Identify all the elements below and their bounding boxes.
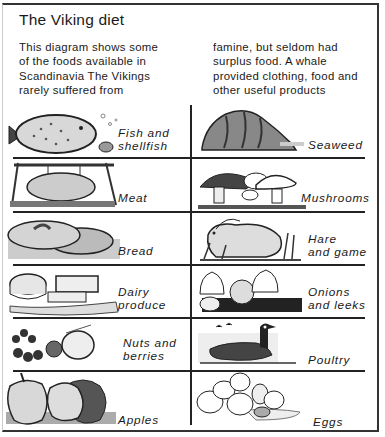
seaweed-rock-icon: [196, 104, 306, 156]
flatfish-icon: [6, 104, 126, 156]
onions-leeks-icon: [196, 266, 306, 317]
intro-line: rarely suffered from: [19, 83, 189, 97]
food-label-onions: Onions and leeks: [308, 286, 366, 312]
cheese-icon: [6, 266, 121, 317]
food-label-bread: Bread: [118, 245, 153, 258]
intro-line: Scandinavia The Vikings: [19, 69, 189, 83]
apples-icon: [4, 372, 119, 428]
food-label-poultry: Poultry: [308, 354, 350, 367]
food-label-nuts: Nuts and berries: [123, 337, 177, 363]
intro-line: other useful products: [213, 83, 383, 97]
food-item-nuts: Nuts and berries: [6, 319, 190, 370]
intro-line: provided clothing, food and: [213, 69, 383, 83]
flatbread-icon: [6, 213, 121, 264]
food-item-bread: Bread: [6, 213, 190, 264]
intro-text-left: This diagram shows some of the foods ava…: [19, 40, 189, 97]
food-label-eggs: Eggs: [313, 416, 343, 429]
food-item-apples: Apples: [4, 372, 190, 428]
eggs-icon: [196, 372, 306, 428]
goose-icon: [196, 319, 306, 370]
food-label-dairy: Dairy produce: [118, 286, 166, 312]
food-item-fish: Fish and shellfish: [6, 104, 190, 156]
food-label-seaweed: Seaweed: [308, 139, 363, 152]
food-item-dairy: Dairy produce: [6, 266, 190, 317]
mushrooms-icon: [196, 159, 306, 211]
food-label-fish: Fish and shellfish: [118, 127, 170, 153]
hare-icon: [196, 213, 306, 264]
roast-pig-icon: [6, 159, 121, 211]
food-label-hare: Hare and game: [308, 233, 367, 259]
intro-text-right: famine, but seldom had surplus food. A w…: [213, 40, 383, 97]
food-item-meat: Meat: [6, 159, 190, 211]
berries-icon: [6, 319, 116, 370]
intro-line: surplus food. A whale: [213, 54, 383, 68]
intro-line: of the foods available in: [19, 54, 189, 68]
intro-line: famine, but seldom had: [213, 40, 383, 54]
food-item-seaweed: Seaweed: [196, 104, 366, 156]
food-label-meat: Meat: [118, 192, 147, 205]
food-item-mushrooms: Mushrooms: [196, 159, 366, 211]
food-label-mushrooms: Mushrooms: [301, 192, 370, 205]
intro-line: This diagram shows some: [19, 40, 189, 54]
food-label-apples: Apples: [118, 414, 159, 427]
food-item-eggs: Eggs: [196, 372, 366, 428]
diagram-title: The Viking diet: [19, 11, 124, 29]
food-item-onions: Onions and leeks: [196, 266, 366, 317]
food-item-hare: Hare and game: [196, 213, 366, 264]
food-item-poultry: Poultry: [196, 319, 366, 370]
